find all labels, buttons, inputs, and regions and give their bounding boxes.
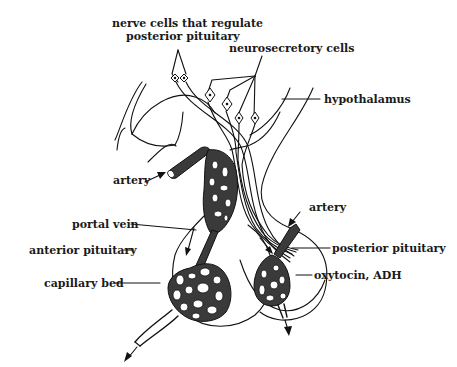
hypophyseal-capillary-upper (166, 147, 237, 275)
label-nerve-cells-line1: nerve cells that regulate (112, 17, 263, 30)
anterior-capillary-bed (124, 264, 231, 362)
label-hypothalamus: hypothalamus (324, 93, 411, 106)
label-capillary-bed: capillary bed (44, 277, 124, 290)
label-nerve-cells-line2: posterior pituitary (126, 30, 240, 43)
label-artery-left: artery (113, 174, 151, 187)
label-neurosecretory-cells: neurosecretory cells (229, 42, 355, 55)
label-oxytocin-adh: oxytocin, ADH (314, 269, 402, 282)
label-anterior-pituitary: anterior pituitary (29, 244, 137, 257)
pituitary-diagram: nerve cells that regulate posterior pitu… (0, 0, 457, 367)
label-posterior-pituitary: posterior pituitary (332, 242, 446, 255)
label-portal-vein: portal vein (72, 218, 139, 231)
label-artery-right: artery (309, 201, 347, 214)
